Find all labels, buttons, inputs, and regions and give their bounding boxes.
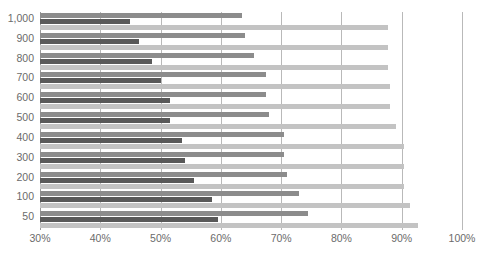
bar-dark <box>40 197 212 202</box>
bar-row <box>40 191 462 211</box>
bar-light <box>40 45 388 50</box>
bar-row <box>40 172 462 192</box>
bar-dark <box>40 59 152 64</box>
bar-row <box>40 13 462 33</box>
x-tick-label: 50% <box>150 232 171 244</box>
y-tick-label: 200 <box>16 172 34 183</box>
bar-medium <box>40 13 242 18</box>
y-tick-label: 100 <box>16 191 34 202</box>
bar-light <box>40 124 396 129</box>
y-tick-label: 800 <box>16 53 34 64</box>
bar-dark <box>40 98 170 103</box>
x-tick-label: 70% <box>271 232 292 244</box>
bar-dark <box>40 39 139 44</box>
bar-row <box>40 112 462 132</box>
chart-container: 1,00090080070060050040030020010050 30%40… <box>0 0 488 256</box>
y-tick-label: 600 <box>16 92 34 103</box>
bar-dark <box>40 178 194 183</box>
bar-medium <box>40 72 266 77</box>
bar-light <box>40 25 388 30</box>
bar-row <box>40 152 462 172</box>
x-axis-labels: 30%40%50%60%70%80%90%100% <box>0 232 488 252</box>
x-tick-label: 80% <box>331 232 352 244</box>
bar-dark <box>40 138 182 143</box>
bar-medium <box>40 132 284 137</box>
bar-medium <box>40 112 269 117</box>
bar-row <box>40 211 462 231</box>
x-tick-label: 90% <box>391 232 412 244</box>
bar-row <box>40 92 462 112</box>
bar-medium <box>40 92 266 97</box>
y-tick-label: 500 <box>16 112 34 123</box>
bar-light <box>40 203 410 208</box>
bar-dark <box>40 217 218 222</box>
bar-dark <box>40 78 161 83</box>
y-tick-label: 700 <box>16 72 34 83</box>
bar-row <box>40 33 462 53</box>
y-tick-label: 300 <box>16 152 34 163</box>
bar-light <box>40 184 404 189</box>
y-tick-label: 50 <box>22 211 34 222</box>
bar-light <box>40 65 388 70</box>
y-tick-label: 400 <box>16 132 34 143</box>
bar-dark <box>40 158 185 163</box>
bar-medium <box>40 211 308 216</box>
bar-light <box>40 164 404 169</box>
bar-medium <box>40 33 245 38</box>
x-tick-label: 60% <box>210 232 231 244</box>
bar-dark <box>40 118 170 123</box>
bar-medium <box>40 152 284 157</box>
bar-row <box>40 132 462 152</box>
bar-medium <box>40 172 287 177</box>
plot-area <box>40 12 462 230</box>
clipped-title-region <box>0 0 488 9</box>
x-tick-label: 40% <box>90 232 111 244</box>
bar-medium <box>40 191 299 196</box>
bar-light <box>40 144 404 149</box>
bar-row <box>40 53 462 73</box>
bar-light <box>40 84 390 89</box>
bar-light <box>40 223 418 228</box>
bar-medium <box>40 53 254 58</box>
y-axis-labels: 1,00090080070060050040030020010050 <box>0 12 34 230</box>
gridline-100pct <box>462 12 463 230</box>
y-tick-label: 900 <box>16 33 34 44</box>
bar-dark <box>40 19 130 24</box>
bar-light <box>40 104 390 109</box>
x-tick-label: 30% <box>29 232 50 244</box>
bar-row <box>40 72 462 92</box>
x-tick-label: 100% <box>449 232 476 244</box>
y-tick-label: 1,000 <box>8 13 34 24</box>
